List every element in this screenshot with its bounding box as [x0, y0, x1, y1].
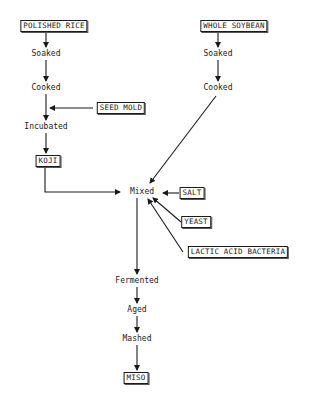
node-soy-cooked: Cooked — [204, 83, 233, 93]
node-miso: MISO — [124, 372, 149, 384]
node-whole-soybean: WHOLE SOYBEAN — [200, 20, 267, 32]
node-polished-rice: POLISHED RICE — [20, 20, 87, 32]
node-salt: SALT — [180, 187, 205, 199]
node-incubated: Incubated — [24, 122, 67, 132]
arrow-soy-cooked-to-mixed — [150, 96, 216, 183]
arrow-lab-in — [148, 199, 183, 252]
node-koji: KOJI — [36, 155, 61, 167]
node-rice-cooked: Cooked — [32, 83, 61, 93]
node-mashed: Mashed — [123, 334, 152, 344]
node-mixed: Mixed — [130, 187, 154, 197]
node-aged: Aged — [127, 305, 146, 315]
node-lactic-acid-bacteria: LACTIC ACID BACTERIA — [188, 246, 288, 258]
node-yeast: YEAST — [181, 216, 211, 228]
node-rice-soaked: Soaked — [32, 49, 61, 59]
node-seed-mold: SEED MOLD — [97, 102, 145, 114]
node-fermented: Fermented — [115, 276, 158, 286]
node-soy-soaked: Soaked — [204, 49, 233, 59]
arrow-koji-to-mixed — [45, 168, 120, 192]
flow-connectors — [0, 0, 315, 404]
arrow-yeast-in — [153, 198, 181, 222]
